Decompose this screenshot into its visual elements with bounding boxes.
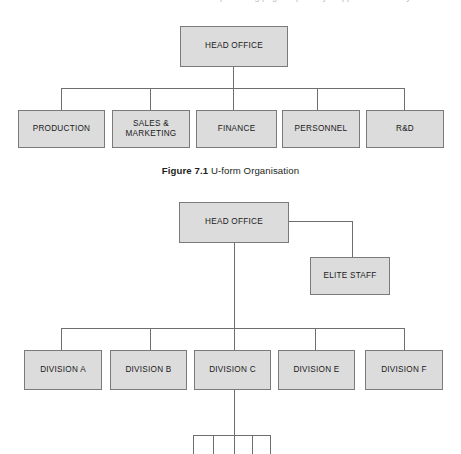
node-division-a[interactable]: DIVISION A [24,350,102,390]
connector-root-stem-mform [234,243,235,328]
connector-drop-division-c [234,328,235,350]
node-rd[interactable]: R&D [366,110,444,148]
connector-divisions-bus [61,328,405,329]
connector-subunits-bus [193,435,271,436]
figure-page: the bottom of the preceding page — parti… [0,0,461,454]
node-division-b[interactable]: DIVISION B [110,350,187,390]
node-elite-staff[interactable]: ELITE STAFF [310,257,390,295]
figure-1-caption-title: U-form Organisation [211,165,299,176]
node-personnel[interactable]: PERSONNEL [282,110,360,148]
figure-1-caption: Figure 7.1 U-form Organisation [0,165,461,176]
connector-drop-division-e [315,328,316,350]
clipped-text: the bottom of the preceding page — parti… [150,0,428,2]
connector-subunit-stub-5 [270,435,271,454]
node-sales-marketing[interactable]: SALES & MARKETING [112,110,190,148]
clipped-text-strip: the bottom of the preceding page — parti… [0,0,461,7]
node-finance[interactable]: FINANCE [196,110,277,148]
node-head-office-mform[interactable]: HEAD OFFICE [179,202,289,243]
node-division-e[interactable]: DIVISION E [278,350,355,390]
connector-subunit-stub-3 [234,435,235,454]
connector-drop-division-b [150,328,151,350]
node-division-c[interactable]: DIVISION C [194,350,271,390]
connector-division-c-stem [234,390,235,435]
node-head-office-uform[interactable]: HEAD OFFICE [180,26,288,67]
connector-drop-sales-marketing [150,88,151,110]
connector-root-to-elite-staff-vertical [352,221,353,257]
connector-drop-division-a [61,328,62,350]
connector-drop-production [61,88,62,110]
connector-subunit-stub-4 [252,435,253,454]
connector-root-to-elite-staff-horizontal [289,221,352,222]
node-division-f[interactable]: DIVISION F [365,350,443,390]
connector-subunit-stub-2 [213,435,214,454]
node-production[interactable]: PRODUCTION [18,110,105,148]
connector-root-stem [233,67,234,88]
connector-subunit-stub-1 [193,435,194,454]
connector-drop-finance [233,88,234,110]
connector-drop-rd [404,88,405,110]
connector-drop-personnel [317,88,318,110]
figure-1-caption-number: Figure 7.1 [162,165,208,176]
connector-drop-division-f [404,328,405,350]
